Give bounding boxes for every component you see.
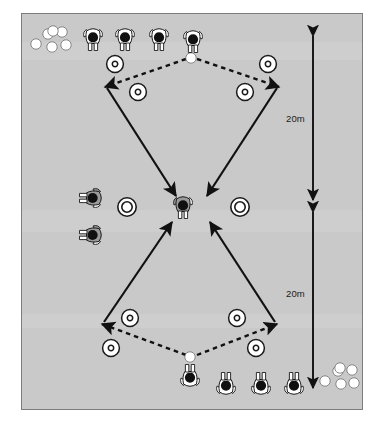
ball-top-served bbox=[186, 53, 196, 63]
distance-label-top: 20m bbox=[286, 113, 305, 124]
pass-bottom-right bbox=[197, 324, 277, 355]
cone-bottom-left-outer bbox=[103, 340, 120, 357]
player-center-working bbox=[174, 197, 193, 219]
diagram-canvas bbox=[0, 0, 386, 429]
ball-bottom-served bbox=[185, 352, 195, 362]
player-bottom-2 bbox=[217, 373, 236, 395]
cone-bottom-right-inner bbox=[229, 310, 246, 327]
run-top-left bbox=[107, 88, 176, 196]
player-top-1 bbox=[84, 29, 103, 51]
cone-bottom-right-outer bbox=[248, 340, 265, 357]
player-left-waiting-2 bbox=[80, 226, 102, 245]
player-top-2 bbox=[116, 29, 135, 51]
cone-mid-left bbox=[118, 198, 136, 216]
player-top-3 bbox=[150, 29, 169, 51]
run-bottom-right bbox=[210, 222, 275, 322]
ball-bottom-queue-4 bbox=[347, 365, 357, 375]
player-bottom-1 bbox=[181, 365, 200, 387]
player-left-waiting-1 bbox=[80, 189, 102, 208]
cone-bottom-left-inner bbox=[122, 310, 139, 327]
run-top-right bbox=[207, 88, 277, 196]
cone-mid-right bbox=[231, 198, 249, 216]
ball-bottom-queue-5 bbox=[349, 378, 359, 388]
ball-top-queue-1 bbox=[31, 39, 41, 49]
run-bottom-left bbox=[104, 222, 172, 322]
ball-bottom-queue-3 bbox=[336, 379, 346, 389]
cone-top-right-inner bbox=[237, 84, 254, 101]
ball-top-queue-6 bbox=[48, 26, 58, 36]
cone-top-left-outer bbox=[107, 56, 124, 73]
ball-top-queue-3 bbox=[47, 42, 57, 52]
cone-top-left-inner bbox=[130, 84, 147, 101]
distance-label-bottom: 20m bbox=[286, 288, 305, 299]
diagram-root: 20m 20m bbox=[0, 0, 386, 429]
ball-bottom-queue-1 bbox=[320, 376, 330, 386]
cone-top-right-outer bbox=[260, 56, 277, 73]
balls-layer bbox=[31, 26, 359, 389]
ball-bottom-queue-6 bbox=[335, 363, 345, 373]
player-bottom-3 bbox=[252, 373, 271, 395]
player-bottom-4 bbox=[285, 373, 304, 395]
ball-top-queue-5 bbox=[61, 40, 71, 50]
player-top-4 bbox=[184, 31, 203, 53]
